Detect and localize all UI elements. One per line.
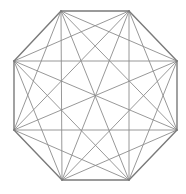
octagon-edge	[129, 130, 177, 180]
diagonal-line	[61, 11, 62, 180]
diagonal-line	[62, 61, 177, 180]
diagonal-line	[14, 61, 129, 180]
diagonal-line	[129, 61, 177, 180]
octagon-edge	[14, 130, 62, 180]
diagonal-line	[61, 11, 177, 130]
octagon-edge	[14, 11, 61, 61]
diagonal-line	[14, 61, 62, 180]
diagonal-line	[129, 11, 177, 130]
diagonal-line	[14, 11, 129, 130]
octagon-edge	[129, 11, 177, 61]
octagon-diagram	[0, 0, 186, 194]
